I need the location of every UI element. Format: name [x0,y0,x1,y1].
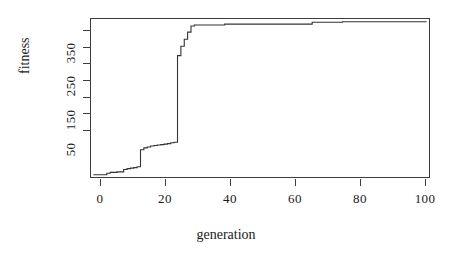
x-tick-label-0: 0 [97,192,104,205]
y-axis-title: fitness [18,37,32,74]
x-tick-80 [360,179,361,186]
x-tick-label-20: 20 [158,192,172,205]
x-tick-label-40: 40 [223,192,237,205]
x-tick-100 [425,179,426,186]
y-tick-label-150: 150 [65,110,78,131]
x-tick-label-60: 60 [288,192,302,205]
x-tick-60 [295,179,296,186]
y-tick-50 [83,130,90,131]
y-tick-300 [83,47,90,48]
x-tick-label-80: 80 [353,192,367,205]
fitness-generation-chart: fitness 350 250 150 50 0 20 40 60 80 100… [0,0,452,262]
y-tick-150 [83,97,90,98]
x-tick-40 [230,179,231,186]
y-tick-label-50: 50 [65,143,78,157]
plot-area [90,18,430,178]
y-tick-200 [83,80,90,81]
x-tick-0 [100,179,101,186]
y-tick-label-250: 250 [65,76,78,97]
x-tick-20 [165,179,166,186]
x-tick-label-100: 100 [415,192,436,205]
y-tick-100 [83,113,90,114]
y-tick-350 [83,30,90,31]
y-tick-label-350: 350 [65,43,78,64]
x-axis-title: generation [0,228,452,242]
y-tick-250 [83,63,90,64]
fitness-series-line [90,18,430,178]
